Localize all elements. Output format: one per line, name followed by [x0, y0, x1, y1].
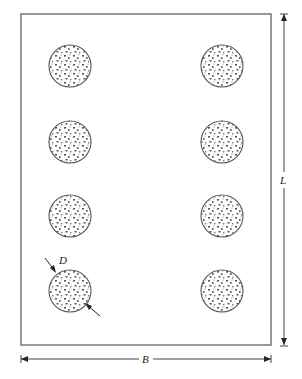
- pile-circle: [201, 121, 243, 163]
- width-dimension: B: [21, 353, 271, 365]
- width-label: B: [142, 353, 149, 365]
- pile-circle: [49, 270, 91, 312]
- pile-circle: [49, 195, 91, 237]
- arrow-down-icon: [281, 338, 287, 345]
- pile-group: [49, 45, 243, 312]
- length-label: L: [279, 174, 286, 186]
- pile-circle: [201, 270, 243, 312]
- arrow-left-icon: [21, 356, 28, 362]
- arrow-right-icon: [264, 356, 271, 362]
- pile-circle: [201, 45, 243, 87]
- pile-circle: [49, 45, 91, 87]
- pile-circle: [49, 121, 91, 163]
- pile-circle: [201, 195, 243, 237]
- diameter-label: D: [58, 254, 67, 266]
- length-dimension: L: [279, 14, 288, 346]
- arrow-up-icon: [281, 14, 287, 21]
- pile-layout-diagram: L B D: [0, 0, 302, 379]
